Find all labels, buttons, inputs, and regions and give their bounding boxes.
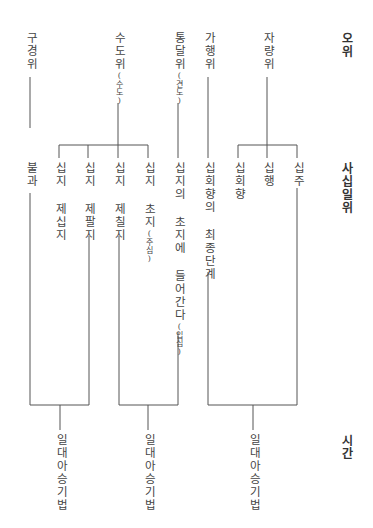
stage-final-hoehyang: 십회향의 최종단계 — [202, 162, 214, 281]
row-label-forty-one-stages: 사십일위 — [339, 162, 356, 214]
row-label-five-stages: 오위 — [339, 32, 356, 58]
stage-gahaengwi: 가행위 — [202, 32, 214, 71]
time-asamkhyeya-2: 일대아승기법 — [142, 434, 154, 512]
stage-sipju: 십주 — [291, 162, 303, 188]
stage-sipji-je-sipji: 십지 제십지 — [53, 162, 65, 242]
stage-sipji-choji: 십지 초지(주심) — [142, 162, 154, 263]
stage-sipji-je-palji: 십지 제팔지 — [82, 162, 94, 242]
stage-sipji-je-chilji: 십지 제칠지 — [112, 162, 124, 242]
stage-tongdalwi: 통달위(견도) — [172, 32, 184, 105]
stage-enter-choji: 십지의 초지에 들어간다(입심) — [172, 162, 184, 356]
row-label-time: 시간 — [339, 434, 356, 460]
stage-siphoehyang: 십회향 — [232, 162, 244, 201]
stage-siphaeng: 십행 — [261, 162, 273, 188]
stage-bulgwa: 불과 — [24, 162, 36, 188]
stage-jaryangwi: 자량위 — [261, 32, 273, 71]
stage-sudowi: 수도위(수도) — [112, 32, 124, 105]
time-asamkhyeya-3: 일대아승기법 — [247, 434, 259, 512]
stage-gugyeongwi: 구경위 — [24, 32, 36, 71]
time-asamkhyeya-1: 일대아승기법 — [54, 434, 66, 512]
